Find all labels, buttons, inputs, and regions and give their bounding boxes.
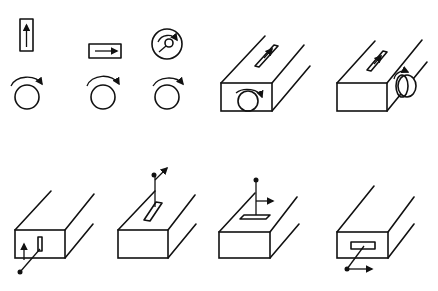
clockwise-knob-icon <box>11 77 42 109</box>
panel-side-knob-top-slider-icon <box>337 40 427 111</box>
vertical-slider-icon <box>20 19 33 51</box>
horizontal-slider-icon <box>89 44 121 58</box>
panel-top-slot-lever-forward-icon <box>118 168 196 258</box>
panel-front-horizontal-slot-lever-icon <box>337 186 414 272</box>
clockwise-knob-icon <box>153 78 183 109</box>
control-motion-diagram <box>0 0 438 291</box>
rotary-dial-icon <box>152 29 182 59</box>
clockwise-knob-icon <box>87 76 119 109</box>
panel-front-knob-top-slider-icon <box>221 36 310 111</box>
panel-top-slot-lever-right-icon <box>219 178 299 259</box>
panel-front-vertical-slot-lever-icon <box>15 191 94 275</box>
